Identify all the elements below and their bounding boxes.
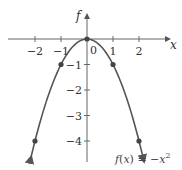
data-point — [58, 62, 63, 67]
y-tick-label: −2 — [66, 84, 82, 97]
data-point — [136, 138, 141, 143]
y-axis-label: f — [75, 9, 83, 23]
origin-label: 0 — [90, 44, 97, 57]
data-point — [32, 138, 37, 143]
function-label: f(x) = −x2 — [114, 151, 171, 166]
x-axis-label: x — [170, 38, 177, 52]
y-ticks: −1−2−3−4 — [66, 59, 90, 149]
parabola-chart: −2−112 −1−2−3−4 x f 0 f(x) = −x2 — [0, 0, 182, 170]
data-point — [84, 36, 89, 41]
y-tick-label: −4 — [66, 135, 82, 148]
x-tick-label: 1 — [110, 45, 117, 58]
x-tick-label: 2 — [136, 45, 143, 58]
y-tick-label: −1 — [66, 59, 82, 72]
x-tick-label: −2 — [27, 45, 43, 58]
data-point — [110, 62, 115, 67]
y-tick-label: −3 — [66, 110, 82, 123]
